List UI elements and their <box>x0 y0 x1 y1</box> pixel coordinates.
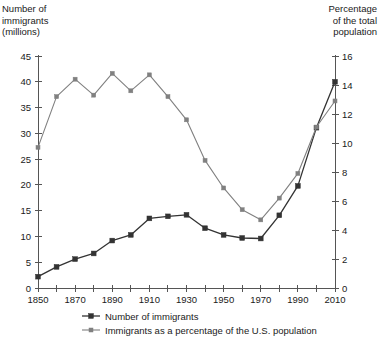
series-marker <box>203 226 208 231</box>
series-marker <box>54 264 59 269</box>
right-axis: 0246810121416 <box>332 51 353 294</box>
left-axis-tick-label: 5 <box>26 257 31 268</box>
legend-label: Number of immigrants <box>105 311 199 322</box>
series-marker <box>296 171 300 175</box>
series-marker <box>240 236 245 241</box>
series-marker <box>184 212 189 217</box>
series-marker <box>110 71 114 75</box>
left-axis-tick-label: 40 <box>20 76 31 87</box>
x-axis: 185018701890191019301950197019902010 <box>27 285 345 306</box>
left-axis-tick-label: 25 <box>20 154 31 165</box>
series-marker <box>258 236 263 241</box>
series-marker <box>147 73 151 77</box>
legend-marker <box>89 328 93 332</box>
left-axis-tick-label: 20 <box>20 179 31 190</box>
series-marker <box>110 238 115 243</box>
series-marker <box>91 251 96 256</box>
right-axis-tick-label: 12 <box>342 109 353 120</box>
chart-legend: Number of immigrantsImmigrants as a perc… <box>82 311 317 336</box>
right-axis-tick-label: 0 <box>342 283 347 294</box>
series-marker <box>147 216 152 221</box>
left-axis-tick-label: 45 <box>20 51 31 62</box>
series-marker <box>222 186 226 190</box>
x-axis-tick-label: 1990 <box>287 294 308 305</box>
series-marker <box>73 257 78 262</box>
series-marker <box>259 218 263 222</box>
series-marker <box>55 95 59 99</box>
series-marker <box>333 79 338 84</box>
legend-label: Immigrants as a percentage of the U.S. p… <box>105 325 317 336</box>
data-series-group <box>36 71 338 279</box>
x-axis-tick-label: 1910 <box>139 294 160 305</box>
right-axis-tick-label: 16 <box>342 51 353 62</box>
chart-plot-area: 051015202530354045 0246810121416 1850187… <box>0 0 379 343</box>
x-axis-tick-label: 1930 <box>176 294 197 305</box>
series-marker <box>277 213 282 218</box>
left-axis-tick-label: 15 <box>20 205 31 216</box>
series-marker <box>277 196 281 200</box>
series-marker <box>333 99 337 103</box>
series-marker <box>166 214 171 219</box>
series-marker <box>128 233 133 238</box>
series-marker <box>240 208 244 212</box>
x-axis-tick-label: 1870 <box>65 294 86 305</box>
series-marker <box>36 274 41 279</box>
right-axis-tick-label: 6 <box>342 196 347 207</box>
series-percentage-of-population <box>36 71 337 221</box>
series-marker <box>73 77 77 81</box>
left-axis-tick-label: 0 <box>26 283 31 294</box>
right-axis-tick-label: 8 <box>342 167 347 178</box>
x-axis-tick-label: 1850 <box>27 294 48 305</box>
right-axis-tick-label: 14 <box>342 80 353 91</box>
right-axis-tick-label: 10 <box>342 138 353 149</box>
legend-item-percentage-of-population[interactable]: Immigrants as a percentage of the U.S. p… <box>82 325 317 336</box>
x-axis-tick-label: 2010 <box>324 294 345 305</box>
series-marker <box>129 89 133 93</box>
series-marker <box>314 125 318 129</box>
left-axis-tick-label: 35 <box>20 102 31 113</box>
series-marker <box>203 158 207 162</box>
legend-marker <box>89 314 94 319</box>
series-marker <box>221 233 226 238</box>
series-number-of-immigrants <box>36 79 338 279</box>
legend-item-number-of-immigrants[interactable]: Number of immigrants <box>82 311 199 322</box>
series-line <box>38 82 335 277</box>
series-marker <box>295 184 300 189</box>
series-marker <box>166 95 170 99</box>
immigration-chart: Number of immigrants (millions) Percenta… <box>0 0 379 343</box>
x-axis-tick-label: 1950 <box>213 294 234 305</box>
series-marker <box>92 93 96 97</box>
left-axis-tick-label: 10 <box>20 231 31 242</box>
x-axis-tick-label: 1890 <box>102 294 123 305</box>
left-axis-tick-label: 30 <box>20 128 31 139</box>
right-axis-tick-label: 2 <box>342 254 347 265</box>
x-axis-tick-label: 1970 <box>250 294 271 305</box>
series-marker <box>36 145 40 149</box>
left-axis: 051015202530354045 <box>20 51 41 294</box>
right-axis-tick-label: 4 <box>342 225 347 236</box>
series-marker <box>185 118 189 122</box>
